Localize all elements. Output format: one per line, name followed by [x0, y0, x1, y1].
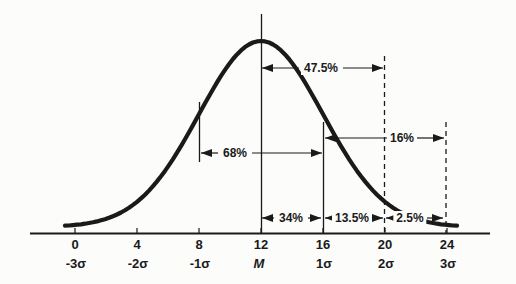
annotation-2-5-label: 2.5%: [393, 211, 426, 225]
annotation-47-5-label: 47.5%: [301, 61, 341, 75]
annotation-68-label: 68%: [220, 146, 250, 160]
tick-value: 8: [195, 237, 202, 252]
tick-sigma: -1σ: [190, 256, 210, 271]
tick-sigma: -3σ: [66, 256, 86, 271]
tick-sigma: -2σ: [128, 256, 148, 271]
tick-sigma: 1σ: [316, 256, 332, 271]
annotation-13-5-label: 13.5%: [332, 211, 372, 225]
tick-value: 0: [71, 237, 78, 252]
mean-label: M: [254, 256, 265, 271]
tick-sigma: 2σ: [378, 256, 394, 271]
tick-value: 4: [133, 237, 140, 252]
tick-value: 12: [254, 237, 268, 252]
annotation-34-label: 34%: [276, 211, 306, 225]
normal-distribution-figure: 47.5% 16% 68% 34% 13.5% 2.5% 0 4 8 12 16…: [0, 0, 516, 284]
tick-value: 16: [316, 237, 330, 252]
axis-ticks: [75, 228, 447, 233]
tick-value: 24: [440, 237, 454, 252]
tick-value: 20: [378, 237, 392, 252]
tick-sigma: 3σ: [440, 256, 456, 271]
annotation-16-label: 16%: [387, 131, 417, 145]
